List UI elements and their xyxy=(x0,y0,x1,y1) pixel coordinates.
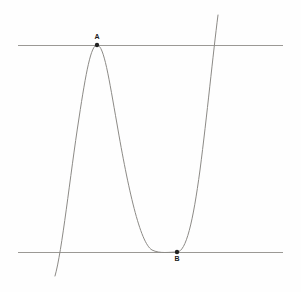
local-maximum-point xyxy=(95,43,99,47)
cubic-curve xyxy=(55,15,218,276)
local-maximum-label: A xyxy=(92,33,102,41)
math-figure-canvas: A B xyxy=(0,0,301,292)
cubic-curve-plot xyxy=(0,0,301,292)
local-minimum-label: B xyxy=(172,255,182,263)
local-minimum-point xyxy=(175,250,179,254)
